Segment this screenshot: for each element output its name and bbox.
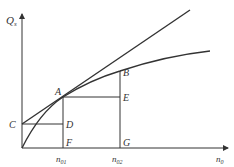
diagram-canvas: Qs n0 A B C D E F G n01 n02 — [0, 0, 234, 167]
point-label-c: C — [9, 119, 16, 130]
point-label-f: F — [65, 137, 73, 148]
point-label-b: B — [123, 67, 129, 78]
characteristic-curve — [22, 51, 210, 148]
tangent-line — [22, 10, 190, 124]
point-label-a: A — [54, 86, 62, 97]
y-axis-label: Qs — [6, 14, 17, 28]
point-label-e: E — [122, 92, 129, 103]
x-axis-label: n0 — [216, 154, 224, 165]
point-label-d: D — [65, 119, 74, 130]
x-tick-n02: n02 — [112, 154, 123, 165]
x-tick-n01: n01 — [56, 154, 67, 165]
point-label-g: G — [123, 137, 130, 148]
